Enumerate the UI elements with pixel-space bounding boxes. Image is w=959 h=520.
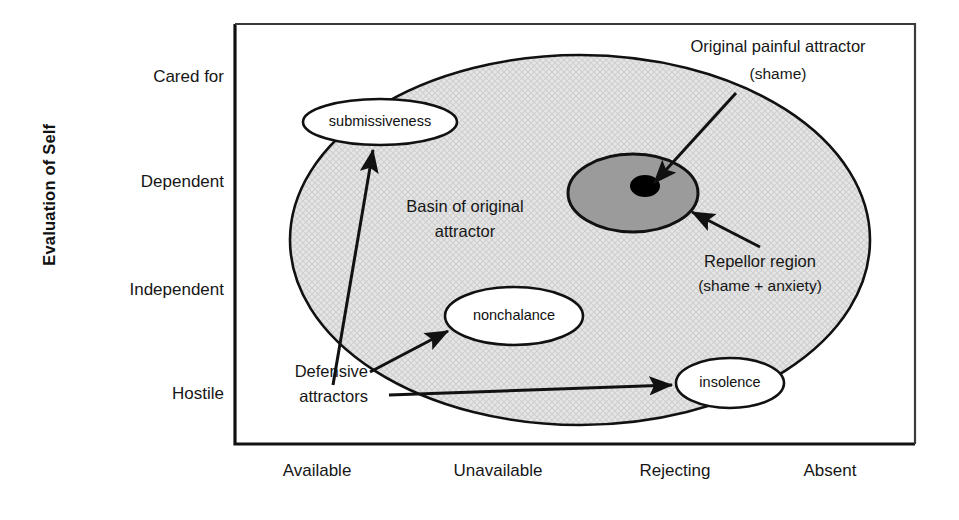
annotation-repellor-line2: (shame + anxiety) [660, 277, 860, 295]
annotation-basin-line2: attractor [365, 222, 565, 241]
annotation-defensive-line1: Defensive [168, 362, 368, 381]
x-tick-available: Available [217, 461, 417, 481]
annotation-defensive-line2: attractors [168, 387, 368, 406]
x-tick-absent: Absent [730, 461, 930, 481]
y-tick-dependent: Dependent [34, 172, 224, 192]
original-attractor-point [630, 175, 660, 197]
repellor-region-shape [568, 154, 698, 232]
figure-root: Evaluation of Self Cared for Dependent I… [0, 0, 959, 520]
y-tick-independent: Independent [34, 280, 224, 300]
annotation-basin-line1: Basin of original [365, 197, 565, 216]
attractor-label-nonchalance: nonchalance [414, 307, 614, 324]
y-tick-cared-for: Cared for [34, 67, 224, 87]
attractor-label-submissiveness: submissiveness [280, 113, 480, 130]
annotation-original-attractor-line1: Original painful attractor [628, 37, 928, 56]
attractor-label-insolence: insolence [630, 374, 830, 391]
axis-y-title: Evaluation of Self [40, 85, 59, 305]
annotation-original-attractor-line2: (shame) [628, 65, 928, 83]
x-tick-unavailable: Unavailable [398, 461, 598, 481]
annotation-repellor-line1: Repellor region [660, 252, 860, 271]
